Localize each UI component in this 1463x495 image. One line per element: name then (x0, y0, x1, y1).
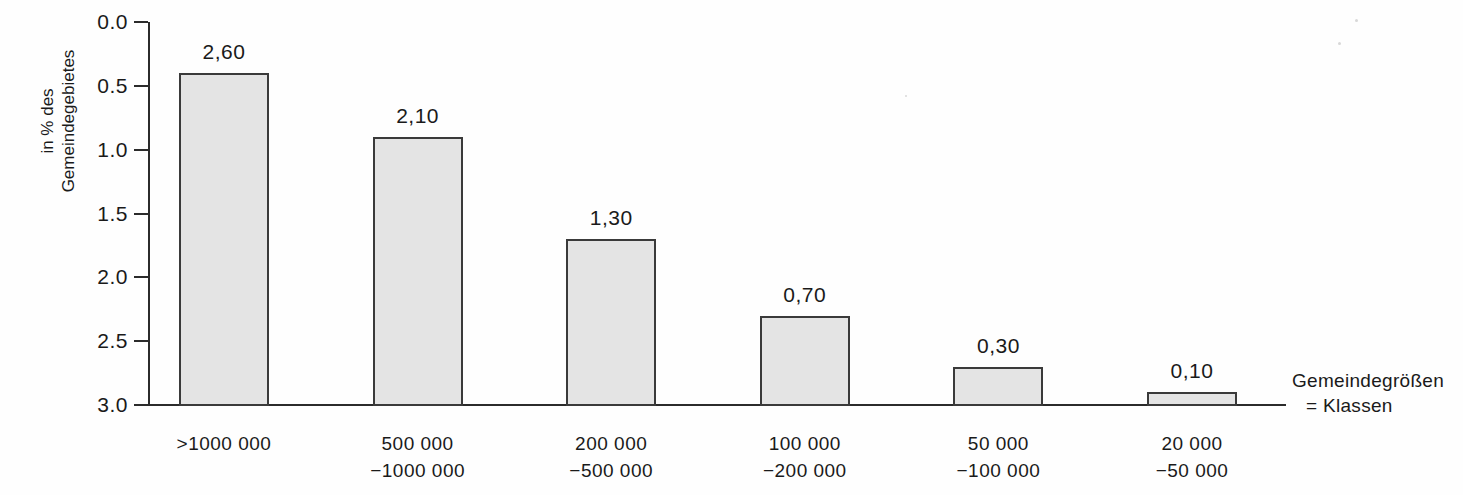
x-axis-category-label-line-1: >1000 000 (114, 430, 334, 457)
bar-value-label: 0,10 (1122, 359, 1262, 383)
x-axis-category-label-line-2: −50 000 (1082, 457, 1302, 484)
x-axis-category-label-line-2: −100 000 (888, 457, 1108, 484)
bar (760, 316, 850, 406)
x-axis-category-label-line-2: −200 000 (695, 457, 915, 484)
x-axis-category-label: 200 000−500 000 (501, 430, 721, 484)
x-axis-category-label-line-1: 20 000 (1082, 430, 1302, 457)
bar-value-label: 0,70 (735, 283, 875, 307)
bar (373, 137, 463, 406)
x-axis-category-label: 500 000−1000 000 (308, 430, 528, 484)
scan-speck (1338, 42, 1341, 45)
bar (566, 239, 656, 406)
x-axis-category-label: >1000 000 (114, 430, 334, 457)
y-axis-line (148, 22, 150, 406)
y-axis-title-line-1: in % des (37, 21, 58, 221)
plot-area: 3.02.52.01.51.00.50.0 in % des Gemeindeg… (0, 0, 1463, 495)
y-axis-tick-label: 1.5 (72, 202, 128, 226)
annotation-line-1: Gemeindegrößen (1292, 368, 1444, 393)
bar (1147, 392, 1237, 406)
x-axis-category-label-line-1: 50 000 (888, 430, 1108, 457)
scan-speck (905, 95, 907, 97)
y-axis-title-line-2: Gemeindegebietes (58, 21, 79, 221)
x-axis-category-label-line-1: 200 000 (501, 430, 721, 457)
x-axis-category-label: 50 000−100 000 (888, 430, 1108, 484)
y-axis-title: in % des Gemeindegebietes (37, 21, 79, 221)
y-axis-tick (134, 21, 148, 23)
x-axis-category-label-line-1: 500 000 (308, 430, 528, 457)
x-axis-category-label-line-1: 100 000 (695, 430, 915, 457)
x-axis-category-label-line-2: −500 000 (501, 457, 721, 484)
bar-chart: 3.02.52.01.51.00.50.0 in % des Gemeindeg… (0, 0, 1463, 495)
y-axis-tick-label: 2.5 (72, 329, 128, 353)
x-axis-category-label: 20 000−50 000 (1082, 430, 1302, 484)
y-axis-tick-label: 0.0 (72, 10, 128, 34)
scan-speck (1355, 19, 1358, 22)
annotation-line-2: = Klassen (1292, 393, 1444, 418)
x-axis-category-label: 100 000−200 000 (695, 430, 915, 484)
y-axis-tick (134, 149, 148, 151)
x-axis-line (148, 404, 1286, 406)
y-axis-tick-label: 1.0 (72, 138, 128, 162)
y-axis-tick (134, 213, 148, 215)
chart-annotation: Gemeindegrößen = Klassen (1292, 368, 1444, 418)
bar-value-label: 2,60 (154, 40, 294, 64)
y-axis-tick-label: 0.5 (72, 74, 128, 98)
x-axis-category-label-line-2: −1000 000 (308, 457, 528, 484)
y-axis-tick-label: 2.0 (72, 265, 128, 289)
bar-value-label: 1,30 (541, 206, 681, 230)
bar (953, 367, 1043, 406)
y-axis-tick (134, 85, 148, 87)
bar-value-label: 0,30 (928, 334, 1068, 358)
bar (179, 73, 269, 406)
y-axis-tick (134, 276, 148, 278)
y-axis-tick (134, 404, 148, 406)
y-axis-tick (134, 340, 148, 342)
y-axis-tick-label: 3.0 (72, 393, 128, 417)
bar-value-label: 2,10 (348, 104, 488, 128)
